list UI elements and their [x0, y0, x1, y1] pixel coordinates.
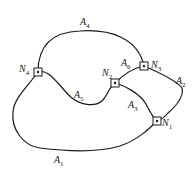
network-diagram: N1 N2 N3 N4 A1 A2 A3 A4 A5 A6	[0, 0, 196, 169]
edge-label-a5: A5	[74, 90, 84, 103]
edge-label-a2: A2	[176, 76, 186, 89]
edge-label-a6: A6	[121, 58, 131, 71]
node-label-n4: N4	[19, 64, 29, 77]
edge-label-a4: A4	[80, 17, 90, 30]
node-label-n1: N1	[162, 118, 172, 131]
node-label-n2: N2	[102, 68, 112, 81]
diagram-canvas	[0, 0, 196, 169]
edge-label-a1: A1	[54, 155, 64, 168]
node-label-n3: N3	[151, 60, 161, 73]
edge-label-a3: A3	[128, 100, 138, 113]
